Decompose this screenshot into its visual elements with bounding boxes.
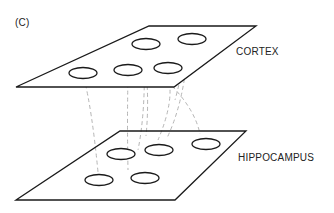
hippocampus-layer <box>16 131 246 200</box>
memory-consolidation-diagram <box>0 0 334 213</box>
cortex-layer <box>16 26 256 87</box>
